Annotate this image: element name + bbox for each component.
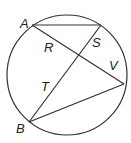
label-s: S: [92, 35, 101, 50]
circle-chord-diagram: A R S V T B: [0, 0, 131, 143]
label-t: T: [41, 79, 50, 94]
label-v: V: [109, 58, 119, 73]
label-b: B: [16, 121, 25, 136]
label-r: R: [44, 40, 53, 55]
label-a: A: [19, 16, 29, 31]
